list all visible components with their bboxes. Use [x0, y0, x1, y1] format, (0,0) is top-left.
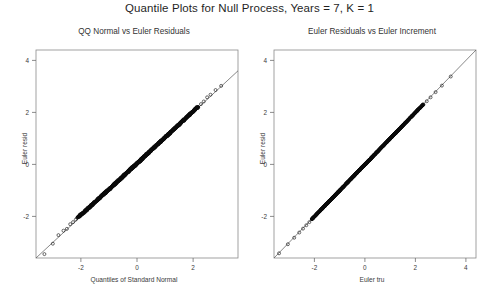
data-point — [305, 224, 308, 227]
left-x-tick-label: 0 — [135, 264, 139, 271]
left-x-tick-label: -2 — [78, 264, 84, 271]
data-point — [298, 231, 301, 234]
left-y-tick-label: 4 — [25, 57, 29, 64]
data-point — [69, 223, 72, 226]
data-point — [72, 221, 75, 224]
left-x-tick-label: 2 — [191, 264, 195, 271]
data-point — [425, 100, 428, 103]
left-scatter-points — [43, 84, 223, 255]
left-panel: -202-2024 — [23, 50, 238, 271]
right-x-tick-label: 4 — [464, 264, 468, 271]
right-y-tick-label: 0 — [263, 161, 267, 168]
data-point — [286, 243, 289, 246]
data-point — [434, 91, 437, 94]
data-point — [429, 96, 432, 99]
data-point — [278, 252, 281, 255]
data-point — [449, 75, 452, 78]
data-point — [308, 221, 311, 224]
data-point — [43, 253, 46, 256]
data-point — [293, 236, 296, 239]
plot-drawing-layer: -202-2024-2024-2024 — [0, 0, 499, 297]
right-y-tick-label: 4 — [263, 57, 267, 64]
left-plot-frame — [36, 50, 238, 258]
right-y-tick-label: -2 — [261, 213, 267, 220]
data-point — [62, 229, 65, 232]
right-panel: -2024-2024 — [261, 50, 476, 271]
figure-canvas: Quantile Plots for Null Process, Years =… — [0, 0, 499, 297]
right-x-tick-label: 2 — [414, 264, 418, 271]
data-point — [57, 234, 60, 237]
data-point — [206, 96, 209, 99]
data-point — [214, 89, 217, 92]
right-x-tick-label: 0 — [363, 264, 367, 271]
data-point — [209, 93, 212, 96]
data-point — [440, 84, 443, 87]
right-y-tick-label: 2 — [263, 109, 267, 116]
right-x-tick-label: -2 — [312, 264, 318, 271]
left-y-tick-label: -2 — [23, 213, 29, 220]
left-y-tick-label: 2 — [25, 109, 29, 116]
left-y-tick-label: 0 — [25, 161, 29, 168]
data-point — [302, 227, 305, 230]
